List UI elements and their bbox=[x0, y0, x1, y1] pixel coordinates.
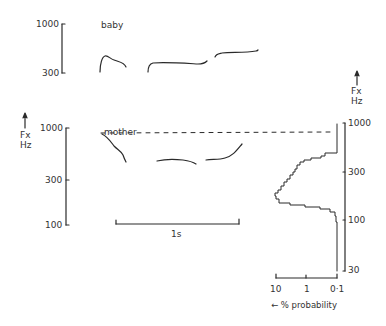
baby-tick-1000: 1000 bbox=[36, 20, 59, 29]
hist-tick-300: 300 bbox=[348, 168, 365, 177]
hist-tick-1000: 1000 bbox=[348, 119, 371, 128]
fx-label-right: Fx bbox=[351, 87, 362, 96]
hist-y-axis bbox=[343, 123, 345, 271]
baby-contours bbox=[100, 50, 258, 72]
mother-tick-1000: 1000 bbox=[40, 124, 63, 133]
time-scale-bar bbox=[116, 219, 239, 224]
hist-tick-30: 30 bbox=[348, 266, 359, 275]
prob-tick-1: 1 bbox=[304, 285, 310, 294]
mother-y-axis bbox=[66, 128, 69, 225]
prob-tick-01: 0·1 bbox=[330, 285, 344, 294]
mother-tick-100: 100 bbox=[45, 221, 62, 230]
hz-label-left: Hz bbox=[20, 141, 32, 150]
fx-histogram bbox=[275, 124, 337, 271]
prob-axis-label: ← % probability bbox=[271, 301, 337, 310]
arrow-up-icon bbox=[355, 71, 359, 85]
arrow-up-icon bbox=[23, 113, 27, 128]
hist-x-axis bbox=[276, 274, 337, 278]
figure-canvas bbox=[0, 0, 386, 326]
prob-tick-10: 10 bbox=[270, 285, 281, 294]
mother-tick-300: 300 bbox=[45, 176, 62, 185]
baby-y-axis bbox=[62, 24, 65, 73]
baby-tick-300: 300 bbox=[42, 69, 59, 78]
baby-label: baby bbox=[101, 21, 123, 30]
time-scale-label: 1s bbox=[171, 230, 181, 239]
mother-contours bbox=[102, 134, 242, 164]
fx-label-left: Fx bbox=[20, 131, 31, 140]
mother-label: mother bbox=[104, 128, 137, 137]
hist-tick-100: 100 bbox=[348, 216, 365, 225]
hz-label-right: Hz bbox=[351, 97, 363, 106]
